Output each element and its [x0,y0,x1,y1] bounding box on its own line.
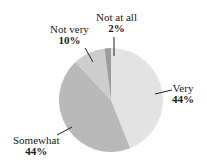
label-not-very: Not very 10% [50,24,89,46]
label-not-at-all-pct: 2% [96,23,137,34]
label-not-very-pct: 10% [50,35,89,46]
label-somewhat-pct: 44% [13,146,59,157]
pie-slices [59,48,163,152]
pie-chart: Not at all 2% Not very 10% Very 44% Some… [0,0,207,164]
label-not-at-all: Not at all 2% [96,12,137,34]
label-somewhat: Somewhat 44% [13,135,59,157]
label-very-pct: 44% [172,94,194,105]
label-very: Very 44% [172,83,194,105]
